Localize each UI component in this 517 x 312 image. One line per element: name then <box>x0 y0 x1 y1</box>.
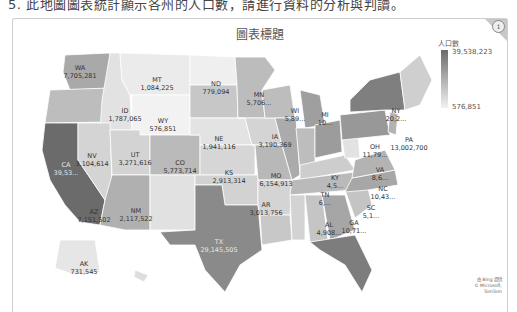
label-al-code: AL <box>325 221 333 229</box>
label-wy-value: 576,851 <box>150 125 177 133</box>
label-ca-code: CA <box>62 161 72 169</box>
state-fl <box>310 235 372 292</box>
label-mi-code: MI <box>321 111 329 119</box>
label-tx-code: TX <box>214 238 224 246</box>
label-mo-code: MO <box>271 172 282 180</box>
label-ia-value: 3,190,369 <box>258 141 291 149</box>
label-mt-code: MT <box>152 76 162 84</box>
label-al-value: 4,908... <box>317 229 342 237</box>
label-nv-value: 3,104,614 <box>75 160 108 168</box>
label-mt-value: 1,084,225 <box>140 84 173 92</box>
label-nc-code: NC <box>378 185 388 193</box>
label-ga-value: 10,71... <box>342 227 367 235</box>
state-ny <box>350 72 405 112</box>
label-va-code: VA <box>376 166 385 174</box>
label-nd-code: ND <box>211 80 221 88</box>
label-ks-code: KS <box>225 169 233 177</box>
label-sc-code: SC <box>367 204 376 212</box>
legend-color-scale <box>441 50 448 108</box>
state-new-england <box>400 55 432 110</box>
label-ar-value: 3,013,756 <box>249 209 282 217</box>
label-pa-value: 13,002,700 <box>390 144 427 152</box>
label-id-value: 1,787,065 <box>108 115 141 123</box>
label-ak-value: 731,545 <box>71 268 98 276</box>
label-va-value: 8,6... <box>372 174 389 182</box>
state-pa <box>340 110 390 140</box>
label-wy-code: WY <box>158 117 168 125</box>
label-ga-code: GA <box>349 219 359 227</box>
label-ks-value: 2,913,314 <box>212 177 245 185</box>
label-mo-value: 6,154,913 <box>259 180 292 188</box>
label-ut-code: UT <box>131 151 140 159</box>
label-id-code: ID <box>122 107 129 115</box>
label-wa-code: WA <box>75 64 86 72</box>
label-ut-value: 3,271,616 <box>118 159 151 167</box>
map-attribution: 由 Bing 提供 © Microsoft, TomTom <box>462 277 502 295</box>
label-ny-value: 20,2... <box>386 115 407 123</box>
state-nm <box>150 175 195 230</box>
label-mn-code: MN <box>254 91 265 99</box>
label-ky-code: KY <box>331 174 339 182</box>
label-co-code: CO <box>175 159 185 167</box>
label-mi-value: 10... <box>318 119 332 127</box>
label-ky-value: 4,5... <box>327 182 344 190</box>
label-ia-code: IA <box>272 133 279 141</box>
label-nm-code: NM <box>131 207 141 215</box>
label-oh-value: 11,79... <box>363 151 388 159</box>
state-la <box>260 215 292 245</box>
label-ny-code: NY <box>392 107 401 115</box>
label-pa-code: PA <box>405 136 414 144</box>
label-ne-code: NE <box>215 135 224 143</box>
label-co-value: 5,773,714 <box>163 167 196 175</box>
label-ar-code: AR <box>262 201 271 209</box>
label-wa-value: 7,705,281 <box>63 72 96 80</box>
label-az-value: 7,151,502 <box>77 216 110 224</box>
label-nv-code: NV <box>87 152 97 160</box>
label-nm-value: 2,117,522 <box>119 215 152 223</box>
label-az-code: AZ <box>90 208 99 216</box>
legend-min: 576,851 <box>452 103 481 111</box>
legend-title: 人口數 <box>438 38 459 48</box>
label-sc-value: 5,1... <box>363 212 380 220</box>
label-nc-value: 10,43... <box>371 193 396 201</box>
label-nd-value: 779,094 <box>203 88 230 96</box>
label-tx-value: 29,145,505 <box>200 246 237 254</box>
legend-max: 39,538,223 <box>452 48 492 56</box>
label-ak-code: AK <box>80 260 89 268</box>
label-ne-value: 1,941,116 <box>202 143 235 151</box>
state-or <box>45 88 110 123</box>
label-wi-code: WI <box>291 107 299 115</box>
state-hi <box>134 270 148 282</box>
state-ms <box>290 195 305 240</box>
label-wi-value: 5,89... <box>285 115 306 123</box>
label-ca-value: 39,53... <box>54 169 79 177</box>
label-tn-code: TN <box>320 191 330 199</box>
label-mn-value: 5,706... <box>247 99 272 107</box>
label-tn-value: 6,... <box>319 199 331 207</box>
attribution-line-2: © Microsoft, TomTom <box>462 283 502 295</box>
label-oh-code: OH <box>370 143 380 151</box>
